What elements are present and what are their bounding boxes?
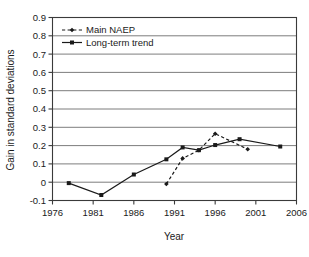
y-tick-label: 0.9 [33,12,46,23]
x-tick-label: 1976 [42,207,63,218]
x-tick-label: 1981 [83,207,104,218]
legend-item-2: Long-term trend [62,37,154,48]
x-tick-label: 1996 [205,207,226,218]
data-point-marker-diamond [70,28,75,33]
y-axis-ticks [49,18,53,201]
y-tick-label: 0.5 [33,85,46,96]
data-point-marker-square [70,41,74,45]
data-point-marker-square [99,193,103,197]
data-point-marker-square [278,145,282,149]
series-line [69,139,280,195]
chart-container: -0.100.10.20.30.40.50.60.70.80.9 1976198… [0,0,309,257]
data-point-marker-square [181,145,185,149]
x-axis-title: Year [164,231,185,242]
y-tick-label: 0.4 [33,103,46,114]
series-2 [67,137,282,197]
data-point-marker-square [132,173,136,177]
y-tick-label: 0.2 [33,140,46,151]
y-tick-label: 0.8 [33,30,46,41]
data-point-marker-square [238,137,242,141]
data-point-marker-square [67,181,71,185]
legend-item-1: Main NAEP [62,24,135,35]
x-tick-label: 2006 [286,207,307,218]
y-tick-label: 0.6 [33,67,46,78]
line-chart: -0.100.10.20.30.40.50.60.70.80.9 1976198… [0,0,309,257]
x-tick-label: 1991 [164,207,185,218]
data-point-marker-square [164,157,168,161]
legend-label: Long-term trend [86,37,154,48]
x-tick-label: 2001 [245,207,266,218]
data-point-marker-square [197,148,201,152]
data-point-marker-diamond [245,147,250,152]
y-tick-label: 0.1 [33,158,46,169]
y-tick-label: 0 [41,177,46,188]
x-axis-ticks [53,201,297,205]
y-tick-label: 0.3 [33,122,46,133]
y-tick-label: 0.7 [33,49,46,60]
y-tick-label: -0.1 [30,195,46,206]
data-point-marker-square [213,143,217,147]
x-tick-label: 1986 [123,207,144,218]
x-axis-tick-labels: 1976198119861991199620012006 [42,207,307,218]
series-line [166,134,247,184]
y-axis-title: Gain in standard deviations [5,49,16,170]
legend-label: Main NAEP [86,24,135,35]
y-axis-tick-labels: -0.100.10.20.30.40.50.60.70.80.9 [30,12,46,206]
